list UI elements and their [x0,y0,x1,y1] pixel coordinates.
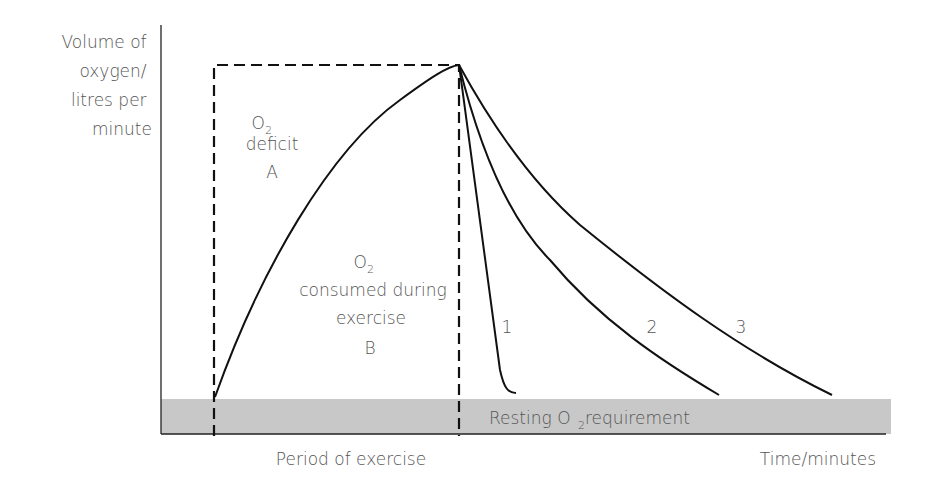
time-axis-label: Time/minutes [760,449,876,469]
recovery-curve-3 [459,65,832,395]
y-axis-label: Volume of oxygen/ litres per minute [62,32,152,139]
svg-text:2: 2 [578,419,585,432]
period-of-exercise-label: Period of exercise [276,449,426,469]
svg-text:requirement: requirement [585,408,690,428]
svg-text:consumed during: consumed during [299,280,447,300]
curve-3-label: 3 [736,317,747,337]
recovery-curve-2 [459,65,719,395]
svg-text:exercise: exercise [336,308,406,328]
oxygen-debt-diagram: Volume of oxygen/ litres per minute O 2 … [0,0,935,485]
svg-text:2: 2 [367,263,374,276]
curve-2-label: 2 [647,317,658,337]
svg-text:O: O [354,252,367,272]
region-a-label: O 2 deficit A [246,113,299,182]
region-b-label: O 2 consumed during exercise B [299,252,447,358]
curve-1-label: 1 [502,317,513,337]
svg-text:O: O [252,113,265,133]
svg-text:A: A [266,162,278,182]
svg-text:B: B [364,338,375,358]
svg-text:deficit: deficit [246,134,299,154]
svg-text:Resting O: Resting O [489,408,571,428]
